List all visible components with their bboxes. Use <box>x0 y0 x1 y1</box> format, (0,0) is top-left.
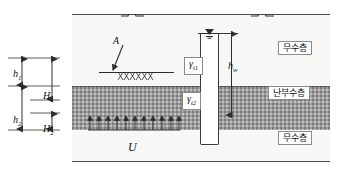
unit-weight-middle-label: γt2 <box>182 92 201 110</box>
h2-label: h2 <box>13 114 21 127</box>
profile-base-line <box>72 161 330 162</box>
H1-subscript: 1 <box>50 96 53 103</box>
diagram-canvas: A hw <box>0 0 342 175</box>
dimension-stack: h1 h2 H1 H2 <box>0 14 72 162</box>
h2-subscript: 2 <box>18 120 21 127</box>
uplift-label: U <box>128 140 137 155</box>
gamma-t2-subscript: t2 <box>191 99 196 106</box>
H2-label: H2 <box>43 123 54 136</box>
h1-label: h1 <box>13 68 21 81</box>
hw-dimension-line <box>226 33 237 116</box>
leader-arrow-icon <box>110 44 126 74</box>
sheet-pile-right <box>170 14 177 113</box>
hw-subscript: w <box>233 66 238 73</box>
break-symbol-icon-right <box>250 14 276 17</box>
h1-subscript: 1 <box>18 74 21 81</box>
uplift-arrow-icon <box>86 116 182 132</box>
stratum-caption-bottom: 무수층 <box>278 131 312 145</box>
stratum-caption-middle: 난부수층 <box>268 86 310 100</box>
sheet-pile-left <box>96 14 103 113</box>
ground-surface-line <box>72 14 330 15</box>
pumping-well-shaft <box>200 33 219 145</box>
water-table-icon <box>203 28 216 39</box>
stratum-caption-top: 무수층 <box>278 41 312 55</box>
H1-label: H1 <box>43 90 54 103</box>
gamma-t1-subscript: t1 <box>193 64 198 71</box>
point-a-label: A <box>113 35 119 46</box>
hw-label: hw <box>228 60 238 73</box>
unit-weight-top-label: γt1 <box>184 57 203 75</box>
break-symbol-icon-left <box>120 14 146 17</box>
H2-subscript: 2 <box>50 129 53 136</box>
